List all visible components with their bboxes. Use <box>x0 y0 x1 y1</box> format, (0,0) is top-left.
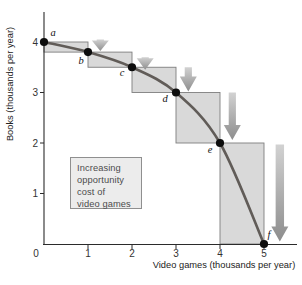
annotation-line-4: video games <box>77 198 141 210</box>
opportunity-cost-step <box>176 93 220 144</box>
x-tick-label: 1 <box>85 248 91 259</box>
opportunity-cost-arrow <box>224 93 241 140</box>
y-axis-title: Books (thousands per year) <box>5 27 15 141</box>
annotation-box: Increasing opportunity cost of video gam… <box>70 157 142 209</box>
ppf-chart: 1234012345abcdef Video games (thousands … <box>0 0 302 285</box>
x-tick-label: 3 <box>173 248 179 259</box>
point-label: e <box>208 144 213 155</box>
annotation-line-1: Increasing <box>77 162 141 174</box>
ppf-point <box>216 139 224 147</box>
ppf-point <box>260 240 268 248</box>
x-tick-label: 4 <box>217 248 223 259</box>
point-label: a <box>50 27 55 38</box>
point-label: b <box>78 55 83 66</box>
ppf-point <box>172 88 180 96</box>
opportunity-cost-arrow <box>180 67 197 91</box>
annotation-line-3: cost of <box>77 186 141 198</box>
y-tick-label: 1 <box>32 188 38 199</box>
opportunity-cost-arrow <box>92 39 109 51</box>
x-tick-label: 2 <box>129 248 135 259</box>
ppf-point <box>128 63 136 71</box>
y-tick-label: 3 <box>32 87 38 98</box>
x-axis-title: Video games (thousands per year) <box>153 260 295 270</box>
point-label: f <box>268 229 273 240</box>
annotation-line-2: opportunity <box>77 174 141 186</box>
point-label: d <box>162 93 168 104</box>
x-tick-label: 5 <box>261 248 267 259</box>
ppf-figure: 1234012345abcdef Video games (thousands … <box>0 0 302 285</box>
opportunity-cost-arrow <box>271 145 288 242</box>
y-tick-label: 2 <box>32 138 38 149</box>
y-tick-label: 4 <box>32 37 38 48</box>
ppf-point <box>40 38 48 46</box>
point-label: c <box>120 67 125 78</box>
ppf-point <box>84 48 92 56</box>
origin-tick-label: 0 <box>33 248 39 259</box>
